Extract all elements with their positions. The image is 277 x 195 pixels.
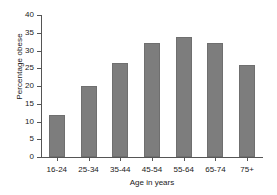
x-axis-tick-label: 35-44 — [110, 165, 130, 175]
y-axis-tick: 0 — [37, 157, 41, 158]
x-axis-tick — [247, 157, 248, 161]
x-axis-tick-label: 25-34 — [78, 165, 98, 175]
y-axis-tick: 10 — [37, 122, 41, 123]
y-axis-tick-label: 15 — [25, 98, 34, 109]
x-axis-tick-label: 55-64 — [173, 165, 193, 175]
x-axis-tick — [57, 157, 58, 161]
bar — [207, 43, 223, 157]
bar — [112, 63, 128, 157]
y-axis-tick-label: 10 — [25, 116, 34, 127]
x-axis-tick-label: 45-54 — [142, 165, 162, 175]
x-axis-tick — [152, 157, 153, 161]
y-axis-tick: 35 — [37, 33, 41, 34]
y-axis-line — [41, 15, 42, 157]
y-axis-tick-label: 40 — [25, 9, 34, 20]
x-axis-title: Age in years — [41, 178, 263, 187]
y-axis-tick-label: 35 — [25, 27, 34, 38]
x-axis-tick-label: 75+ — [240, 165, 254, 175]
bar — [239, 65, 255, 157]
x-axis-tick — [184, 157, 185, 161]
bar-chart: Percentage obese 0510152025303540 16-242… — [0, 0, 277, 195]
y-axis-tick: 25 — [37, 68, 41, 69]
bar — [81, 86, 97, 157]
y-axis-tick-label: 30 — [25, 45, 34, 56]
bar — [49, 115, 65, 157]
x-axis-tick — [89, 157, 90, 161]
bar — [176, 37, 192, 157]
y-axis-tick-label: 0 — [30, 151, 34, 162]
y-axis-tick: 15 — [37, 104, 41, 105]
y-axis-tick-label: 25 — [25, 62, 34, 73]
y-axis-title: Percentage obese — [15, 12, 24, 122]
y-axis-tick: 40 — [37, 15, 41, 16]
y-axis-tick-label: 5 — [30, 133, 34, 144]
y-axis-tick: 5 — [37, 139, 41, 140]
x-axis-tick-label: 65-74 — [205, 165, 225, 175]
x-axis-tick-label: 16-24 — [47, 165, 67, 175]
plot-area: 0510152025303540 16-2425-3435-4445-5455-… — [41, 15, 263, 157]
y-axis-tick: 30 — [37, 51, 41, 52]
y-axis-tick: 20 — [37, 86, 41, 87]
y-axis-tick-label: 20 — [25, 80, 34, 91]
bar — [144, 43, 160, 157]
x-axis-tick — [120, 157, 121, 161]
x-axis-tick — [215, 157, 216, 161]
